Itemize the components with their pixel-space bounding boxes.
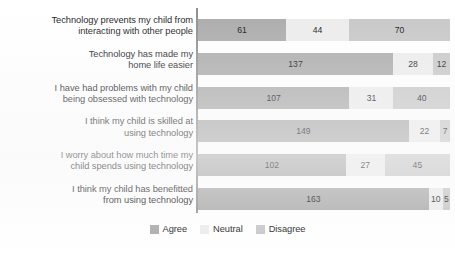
category-label: Technology has made myhome life easier xyxy=(5,49,193,71)
bar-segment-agree: 102 xyxy=(198,154,346,176)
stacked-bar-track: 1073140 xyxy=(198,87,450,109)
bar-row: Technology has made myhome life easier13… xyxy=(0,49,455,79)
category-label-line: Technology prevents my child from xyxy=(5,15,193,26)
stacked-bar-track: 1372812 xyxy=(198,53,450,75)
bar-segment-neutral: 28 xyxy=(393,53,433,75)
bar-row: I think my child is skilled atusing tech… xyxy=(0,116,455,146)
bar-value-label: 102 xyxy=(265,160,279,170)
stacked-bar-track: 163105 xyxy=(198,188,450,210)
bar-segment-agree: 137 xyxy=(198,53,393,75)
bar-segment-neutral: 22 xyxy=(409,120,440,142)
legend-label: Agree xyxy=(163,224,188,234)
bar-value-label: 7 xyxy=(443,126,448,136)
category-label: I worry about how much time mychild spen… xyxy=(5,150,193,172)
bar-value-label: 45 xyxy=(413,160,423,170)
stacked-bar-track: 149227 xyxy=(198,120,450,142)
bar-row: I think my child has benefittedfrom usin… xyxy=(0,184,455,214)
bar-segment-agree: 149 xyxy=(198,120,409,142)
bar-value-label: 137 xyxy=(288,59,302,69)
bar-value-label: 61 xyxy=(237,25,247,35)
bar-segment-agree: 107 xyxy=(198,87,349,109)
stacked-bar-track: 614470 xyxy=(198,19,450,41)
bar-segment-disagree: 12 xyxy=(433,53,450,75)
legend-label: Disagree xyxy=(269,224,306,234)
legend-swatch-icon xyxy=(150,225,159,234)
category-label-line: I think my child has benefitted xyxy=(5,184,193,195)
category-label-line: using technology xyxy=(5,128,193,139)
category-label-line: I have had problems with my child xyxy=(5,83,193,94)
bar-value-label: 10 xyxy=(431,194,441,204)
category-label-line: I worry about how much time my xyxy=(5,150,193,161)
category-label-line: home life easier xyxy=(5,60,193,71)
legend-item[interactable]: Neutral xyxy=(200,224,243,234)
category-label-line: being obsessed with technology xyxy=(5,94,193,105)
category-label-line: child spends using technology xyxy=(5,161,193,172)
bar-segment-agree: 61 xyxy=(198,19,286,41)
bar-value-label: 40 xyxy=(417,93,427,103)
bar-segment-neutral: 44 xyxy=(286,19,349,41)
bar-value-label: 5 xyxy=(444,194,449,204)
chart-legend: AgreeNeutralDisagree xyxy=(0,224,455,234)
bar-segment-neutral: 10 xyxy=(429,188,443,210)
category-label-line: from using technology xyxy=(5,195,193,206)
bar-value-label: 22 xyxy=(420,126,430,136)
bar-value-label: 31 xyxy=(367,93,377,103)
category-label: I think my child is skilled atusing tech… xyxy=(5,116,193,138)
category-label: I think my child has benefittedfrom usin… xyxy=(5,184,193,206)
category-label-line: I think my child is skilled at xyxy=(5,116,193,127)
bar-segment-disagree: 45 xyxy=(385,154,450,176)
bar-row: Technology prevents my child frominterac… xyxy=(0,15,455,45)
bar-value-label: 12 xyxy=(437,59,447,69)
bar-segment-disagree: 5 xyxy=(443,188,450,210)
bar-value-label: 27 xyxy=(360,160,370,170)
stacked-bar-track: 1022745 xyxy=(198,154,450,176)
stacked-bar-chart: Technology prevents my child frominterac… xyxy=(0,0,455,253)
category-label-line: interacting with other people xyxy=(5,26,193,37)
category-label: I have had problems with my childbeing o… xyxy=(5,83,193,105)
bar-segment-agree: 163 xyxy=(198,188,429,210)
bar-value-label: 70 xyxy=(395,25,405,35)
category-label-line: Technology has made my xyxy=(5,49,193,60)
bar-value-label: 44 xyxy=(313,25,323,35)
bar-value-label: 28 xyxy=(408,59,418,69)
bar-value-label: 107 xyxy=(267,93,281,103)
bar-row: I have had problems with my childbeing o… xyxy=(0,83,455,113)
legend-swatch-icon xyxy=(256,225,265,234)
legend-swatch-icon xyxy=(200,225,209,234)
bar-segment-neutral: 27 xyxy=(346,154,385,176)
bar-value-label: 149 xyxy=(296,126,310,136)
bar-segment-disagree: 40 xyxy=(393,87,450,109)
plot-area: Technology prevents my child frominterac… xyxy=(0,8,455,213)
category-label: Technology prevents my child frominterac… xyxy=(5,15,193,37)
legend-item[interactable]: Disagree xyxy=(256,224,306,234)
bar-row: I worry about how much time mychild spen… xyxy=(0,150,455,180)
bar-segment-disagree: 70 xyxy=(349,19,450,41)
legend-label: Neutral xyxy=(213,224,243,234)
legend-item[interactable]: Agree xyxy=(150,224,188,234)
bar-segment-neutral: 31 xyxy=(349,87,393,109)
bar-value-label: 163 xyxy=(306,194,320,204)
bar-segment-disagree: 7 xyxy=(440,120,450,142)
